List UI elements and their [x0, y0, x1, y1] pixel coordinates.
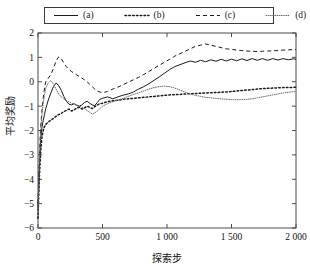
- y-tick-label: −6: [24, 223, 34, 233]
- y-tick-label: 0: [29, 77, 34, 87]
- y-tick-label: −5: [24, 199, 34, 209]
- chart-figure: (a) (b) (c) (d): [0, 0, 310, 272]
- plot-area: −6−5−4−3−2−1012 05001 0001 5002 000: [0, 0, 310, 272]
- y-tick-label: −2: [24, 126, 34, 136]
- x-axis-ticks: 05001 0001 5002 000: [36, 33, 307, 242]
- x-tick-label: 1 000: [156, 232, 178, 242]
- y-tick-label: 2: [29, 28, 34, 38]
- y-tick-label: −4: [24, 175, 34, 185]
- series-line-a: [38, 59, 296, 209]
- x-tick-label: 2 000: [285, 232, 307, 242]
- y-tick-label: −3: [24, 150, 34, 160]
- y-tick-label: −1: [24, 102, 34, 112]
- x-tick-label: 500: [95, 232, 110, 242]
- data-series-group: [38, 44, 296, 218]
- series-line-c: [38, 44, 296, 204]
- x-tick-label: 0: [36, 232, 41, 242]
- series-line-b: [38, 87, 296, 218]
- axis-frame: [38, 33, 296, 228]
- y-axis-label: 平均奖励: [2, 86, 17, 146]
- x-tick-label: 1 500: [221, 232, 243, 242]
- y-tick-label: 1: [29, 53, 34, 63]
- x-axis-label: 探索步: [38, 250, 296, 265]
- series-line-d: [38, 81, 296, 214]
